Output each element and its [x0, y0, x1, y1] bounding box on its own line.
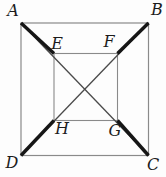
- vertex-label-b: B: [150, 0, 163, 19]
- vertex-label-h: H: [54, 119, 70, 138]
- thick-segment-dh: [21, 121, 54, 156]
- thick-segment-bf: [118, 23, 149, 54]
- geometry-figure: A B C D E F G H: [0, 0, 166, 177]
- vertex-label-a: A: [5, 1, 19, 20]
- vertex-label-d: D: [5, 153, 19, 172]
- vertex-label-g: G: [109, 121, 122, 140]
- thick-segment-cg: [118, 121, 149, 156]
- vertex-label-e: E: [50, 34, 63, 53]
- thick-segment-ae: [21, 23, 54, 54]
- figure-canvas: A B C D E F G H: [0, 0, 166, 177]
- vertex-label-c: C: [147, 155, 159, 174]
- vertex-label-f: F: [102, 32, 115, 51]
